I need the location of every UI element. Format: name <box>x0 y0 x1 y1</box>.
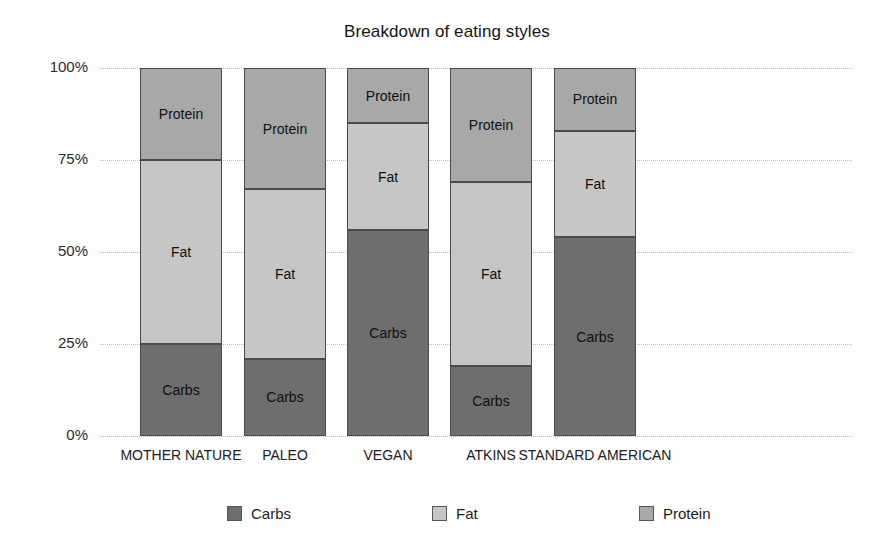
bar-atkins[interactable]: CarbsFatProtein <box>450 68 532 436</box>
legend-swatch-icon <box>432 506 447 521</box>
bar-segment-protein[interactable]: Protein <box>140 68 222 160</box>
legend-item-protein[interactable]: Protein <box>639 505 711 522</box>
bar-segment-label: Protein <box>366 89 410 103</box>
bar-segment-protein[interactable]: Protein <box>347 68 429 123</box>
chart-legend: CarbsFatProtein <box>0 505 894 535</box>
bar-segment-carbs[interactable]: Carbs <box>244 359 326 436</box>
bar-segment-protein[interactable]: Protein <box>450 68 532 182</box>
bar-segment-protein[interactable]: Protein <box>244 68 326 189</box>
bar-segment-carbs[interactable]: Carbs <box>347 230 429 436</box>
legend-label: Fat <box>456 505 478 522</box>
bar-segment-fat[interactable]: Fat <box>140 160 222 344</box>
bar-standard-american[interactable]: CarbsFatProtein <box>554 68 636 436</box>
bar-segment-fat[interactable]: Fat <box>554 131 636 238</box>
bar-paleo[interactable]: CarbsFatProtein <box>244 68 326 436</box>
bar-mother-nature[interactable]: CarbsFatProtein <box>140 68 222 436</box>
legend-label: Carbs <box>251 505 291 522</box>
legend-swatch-icon <box>639 506 654 521</box>
bar-segment-label: Carbs <box>472 394 509 408</box>
gridline-0pct <box>100 436 852 437</box>
bar-vegan[interactable]: CarbsFatProtein <box>347 68 429 436</box>
bar-segment-carbs[interactable]: Carbs <box>554 237 636 436</box>
bar-segment-label: Fat <box>481 267 501 281</box>
bar-segment-carbs[interactable]: Carbs <box>140 344 222 436</box>
legend-item-fat[interactable]: Fat <box>432 505 478 522</box>
bar-segment-label: Carbs <box>266 390 303 404</box>
bar-segment-fat[interactable]: Fat <box>244 189 326 358</box>
legend-item-carbs[interactable]: Carbs <box>227 505 291 522</box>
chart-root: Breakdown of eating styles 0%25%50%75%10… <box>0 0 894 551</box>
y-axis-tick-label: 50% <box>26 242 88 259</box>
bar-segment-carbs[interactable]: Carbs <box>450 366 532 436</box>
y-axis-tick-label: 100% <box>26 58 88 75</box>
bar-segment-label: Protein <box>263 122 307 136</box>
bar-segment-fat[interactable]: Fat <box>347 123 429 230</box>
bar-segment-label: Carbs <box>162 383 199 397</box>
bar-segment-label: Protein <box>573 92 617 106</box>
legend-label: Protein <box>663 505 711 522</box>
y-axis-tick-label: 0% <box>26 426 88 443</box>
y-axis-tick-label: 25% <box>26 334 88 351</box>
bar-segment-label: Fat <box>585 177 605 191</box>
bar-segment-label: Fat <box>378 170 398 184</box>
bar-segment-label: Fat <box>171 245 191 259</box>
legend-swatch-icon <box>227 506 242 521</box>
bar-segment-label: Protein <box>469 118 513 132</box>
chart-title: Breakdown of eating styles <box>0 22 894 42</box>
plot-area: 0%25%50%75%100%CarbsFatProteinCarbsFatPr… <box>100 68 852 436</box>
bar-segment-label: Carbs <box>369 326 406 340</box>
bar-segment-protein[interactable]: Protein <box>554 68 636 131</box>
bar-segment-label: Carbs <box>576 330 613 344</box>
bar-segment-label: Fat <box>275 267 295 281</box>
bar-segment-fat[interactable]: Fat <box>450 182 532 366</box>
bar-segment-label: Protein <box>159 107 203 121</box>
x-axis-category-label: STANDARD AMERICAN <box>495 447 695 463</box>
y-axis-tick-label: 75% <box>26 150 88 167</box>
